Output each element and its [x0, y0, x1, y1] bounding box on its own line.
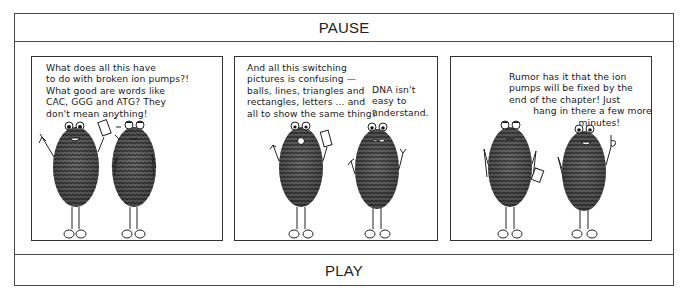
- comic-panel-1: What does all this have to do with broke…: [31, 56, 223, 241]
- pause-button[interactable]: PAUSE: [15, 14, 673, 42]
- fingerprint-character-left: [39, 117, 121, 238]
- comic-panel-2: And all this switching pictures is confu…: [234, 56, 438, 241]
- fingerprint-character-left: [484, 121, 544, 238]
- characters-illustration: [451, 119, 652, 241]
- characters-illustration: [32, 117, 223, 241]
- fingerprint-character-right: [558, 125, 616, 238]
- fingerprint-character-left: [270, 119, 332, 238]
- fingerprint-character-right: [112, 121, 156, 238]
- speech-text-left-character: What does all this have to do with broke…: [46, 62, 189, 119]
- comic-panel-3: Rumor has it that the ion pumps will be …: [450, 56, 652, 241]
- speech-text-right-character: DNA isn't easy to understand.: [372, 84, 429, 118]
- fingerprint-character-right: [348, 123, 406, 238]
- play-button[interactable]: PLAY: [15, 254, 673, 285]
- characters-illustration: [235, 119, 438, 241]
- speech-text-left-character: And all this switching pictures is confu…: [247, 62, 377, 119]
